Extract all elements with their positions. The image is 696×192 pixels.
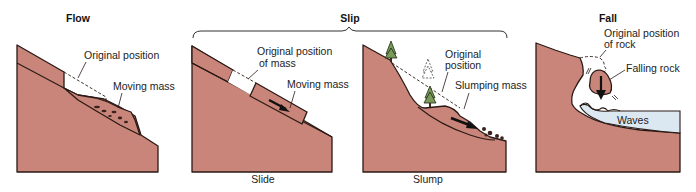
slip-group: Slip (193, 12, 507, 38)
flow-label-moving: Moving mass (113, 80, 175, 92)
fall-label-falling: Falling rock (626, 62, 680, 74)
fall-leader-falling (609, 70, 625, 80)
slip-title: Slip (340, 12, 359, 24)
slip-bracket (193, 27, 507, 38)
flow-title: Flow (66, 12, 91, 24)
slump-panel: Original position Slumping mass Slump (363, 41, 527, 185)
flow-label-original: Original position (84, 49, 159, 61)
flow-leader-original (78, 62, 86, 78)
flow-panel: Flow Original position Moving mass (17, 12, 175, 172)
fall-title: Fall (599, 12, 617, 24)
slide-leader-original (248, 70, 258, 79)
fall-label-original-line2: of rock (604, 38, 636, 50)
slide-caption: Slide (251, 173, 275, 185)
slump-tree-ghost (422, 59, 434, 78)
fall-label-waves: Waves (617, 114, 649, 126)
slump-caption: Slump (413, 173, 443, 185)
slide-label-original-line1: Original position (257, 45, 332, 57)
slide-panel: Original position of mass Moving mass Sl… (192, 45, 349, 185)
slump-bedrock (363, 45, 506, 172)
slump-leader-original (442, 72, 448, 92)
fall-leader-original (600, 50, 606, 57)
slump-label-original-line2: position (445, 59, 481, 71)
mass-movement-diagram: Flow Original position Moving mass Slip (0, 0, 696, 192)
fall-original-rock-outline (580, 57, 606, 73)
flow-bedrock (17, 45, 158, 172)
fall-panel: Fall Original position of rock Falling r… (536, 12, 680, 172)
slump-label-slumping: Slumping mass (455, 79, 527, 91)
flow-leader-moving (118, 93, 122, 108)
slump-tree-displaced (424, 86, 436, 107)
slide-label-moving: Moving mass (287, 78, 349, 90)
slump-leader-slumping (464, 93, 469, 109)
slide-label-original-line2: of mass (259, 57, 296, 69)
